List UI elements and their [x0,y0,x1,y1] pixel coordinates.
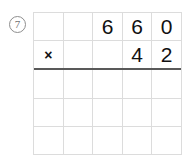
cell-r2c3[interactable] [93,41,123,68]
cell-r1c2[interactable] [64,13,94,40]
cell-r3c1[interactable] [34,70,64,97]
cell-r4c3[interactable] [93,99,123,126]
cell-r3c2[interactable] [64,70,94,97]
cell-r5c1[interactable] [34,127,64,154]
cell-r1c1[interactable] [34,13,64,40]
cell-r2c5[interactable]: 2 [152,41,181,68]
cell-r1c5[interactable]: 0 [152,13,181,40]
partial-product-row-2 [34,99,181,127]
problem-number-label: 7 [9,16,26,33]
worksheet-problem: 7 660×42 [0,0,192,163]
cell-r2c2[interactable] [64,41,94,68]
cell-r1c4[interactable]: 6 [123,13,153,40]
total-row [34,127,181,154]
partial-product-row-1 [34,70,181,98]
multiplicand-row: 660 [34,13,181,41]
calculation-grid: 660×42 [33,12,182,155]
cell-r4c1[interactable] [34,99,64,126]
cell-r4c2[interactable] [64,99,94,126]
cell-r3c5[interactable] [152,70,181,97]
cell-r1c3[interactable]: 6 [93,13,123,40]
cell-r5c5[interactable] [152,127,181,154]
cell-r5c2[interactable] [64,127,94,154]
cell-r4c5[interactable] [152,99,181,126]
cell-r2c1[interactable]: × [34,41,64,68]
cell-r5c3[interactable] [93,127,123,154]
multiplier-row: ×42 [34,41,181,70]
cell-r5c4[interactable] [123,127,153,154]
cell-r2c4[interactable]: 4 [123,41,153,68]
cell-r3c3[interactable] [93,70,123,97]
cell-r4c4[interactable] [123,99,153,126]
cell-r3c4[interactable] [123,70,153,97]
